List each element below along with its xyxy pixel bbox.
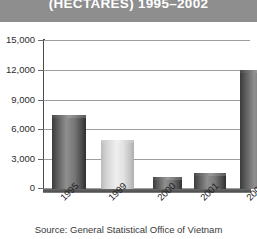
y-tick-mark-3000 <box>38 159 44 160</box>
gridline-15000 <box>44 40 250 41</box>
bar-cap-1995 <box>52 115 86 118</box>
bar-2002 <box>240 70 257 189</box>
y-tick-mark-12000 <box>38 70 44 71</box>
y-tick-label-12000: 12,000 <box>0 64 35 75</box>
bar-cap-2002 <box>240 70 257 73</box>
plot-area <box>44 40 250 189</box>
bar-cap-2000 <box>153 177 182 180</box>
bar-1995 <box>52 115 86 190</box>
y-tick-label-0: 0 <box>0 182 35 193</box>
gridline-12000 <box>44 70 250 71</box>
y-tick-label-6000: 6,000 <box>0 123 35 134</box>
y-tick-mark-15000 <box>38 40 44 41</box>
x-axis-labels: 1995 1999 2000 2001 2002 <box>44 193 250 227</box>
gridline-9000 <box>44 100 250 101</box>
chart-title: (HECTARES) 1995–2002 <box>0 0 257 14</box>
chart-figure: (HECTARES) 1995–2002 <box>0 0 257 239</box>
y-tick-label-15000: 15,000 <box>0 34 35 45</box>
chart-plot-wrapper: 15,000 12,000 9,000 6,000 3,000 0 1995 1… <box>0 22 257 239</box>
source-note: Source: General Statistical Office of Vi… <box>0 224 257 235</box>
y-tick-mark-9000 <box>38 100 44 101</box>
bar-cap-2001 <box>194 173 226 176</box>
y-tick-label-3000: 3,000 <box>0 153 35 164</box>
y-tick-label-9000: 9,000 <box>0 94 35 105</box>
chart-title-band: (HECTARES) 1995–2002 <box>0 0 257 22</box>
y-tick-mark-0 <box>38 188 44 189</box>
y-tick-mark-6000 <box>38 129 44 130</box>
bar-cap-1999 <box>101 140 134 143</box>
